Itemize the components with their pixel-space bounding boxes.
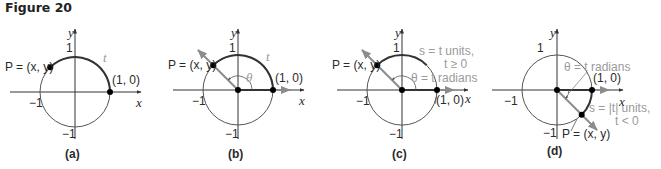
x-axis-label: x — [618, 94, 625, 109]
y-axis-label: y — [229, 25, 237, 40]
arc-label-line2: t < 0 — [615, 114, 639, 128]
panel-c: P = (x, y) (1, 0) s = t units, t ≥ 0 θ =… — [332, 25, 477, 161]
tick-label-y-neg: −1 — [543, 126, 557, 140]
angle-arc — [566, 90, 570, 99]
point-start — [107, 89, 113, 95]
point-p-label: P = (x, y) — [562, 127, 610, 141]
tick-label-y-neg: −1 — [225, 127, 239, 141]
arc-t — [50, 57, 110, 92]
origin-point — [235, 87, 241, 93]
angle-label: θ = t radians — [411, 71, 477, 85]
panel-b: P = (x, y) (1, 0) t θ x y 1 −1 −1 (b) — [168, 25, 305, 161]
point-p — [579, 112, 585, 118]
start-point-label: (1, 0) — [112, 73, 140, 87]
tick-label-y-pos: 1 — [537, 41, 544, 55]
arc-t — [213, 55, 273, 90]
angle-label: θ = t radians — [564, 60, 630, 74]
angle-label: θ — [246, 70, 253, 85]
tick-label-x-neg: −1 — [29, 96, 43, 110]
panel-caption: (d) — [547, 144, 562, 158]
start-point-label: (1, 0) — [275, 71, 303, 85]
tick-label-x-neg: −1 — [356, 94, 370, 108]
point-start — [270, 87, 276, 93]
panel-caption: (b) — [228, 147, 243, 161]
point-p-label: P = (x, y) — [332, 58, 380, 72]
unit-circle-figure: P = (x, y) (1, 0) t x y 1 −1 −1 (a) P = … — [0, 0, 661, 169]
y-axis-label: y — [393, 25, 401, 40]
start-point-label: (1, 0) — [436, 93, 464, 107]
panel-caption: (a) — [65, 147, 80, 161]
tick-label-y-pos: 1 — [229, 41, 236, 55]
panel-a: P = (x, y) (1, 0) t x y 1 −1 −1 (a) — [5, 25, 142, 161]
origin-point — [399, 87, 405, 93]
tick-label-x-neg: −1 — [192, 94, 206, 108]
y-axis-label: y — [66, 25, 74, 40]
panel-d: P = (x, y) (1, 0) s = |t| units, t < 0 θ… — [492, 25, 650, 158]
point-p-label: P = (x, y) — [168, 58, 216, 72]
arc-label-line2: t ≥ 0 — [444, 57, 468, 71]
arc-label: t — [266, 49, 270, 64]
x-axis-label: x — [135, 95, 142, 110]
tick-label-y-neg: −1 — [389, 127, 403, 141]
tick-label-x-neg: −1 — [504, 94, 518, 108]
x-axis-label: x — [464, 91, 471, 106]
origin-point — [554, 87, 560, 93]
panel-caption: (c) — [392, 147, 407, 161]
arc-label-line1: s = t units, — [419, 44, 474, 58]
tick-label-y-neg: −1 — [62, 127, 76, 141]
y-axis-label: y — [548, 25, 556, 40]
point-start — [589, 87, 595, 93]
x-axis-label: x — [298, 93, 305, 108]
arc-label: t — [103, 50, 107, 65]
tick-label-y-pos: 1 — [66, 41, 73, 55]
tick-label-y-pos: 1 — [393, 41, 400, 55]
point-p-label: P = (x, y) — [5, 60, 53, 74]
